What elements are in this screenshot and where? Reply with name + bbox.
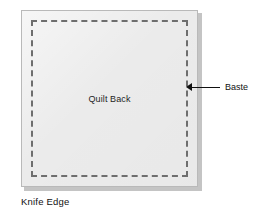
knife-edge-diagram: Quilt Back Baste Knife Edge	[0, 0, 254, 222]
figure-caption: Knife Edge	[21, 196, 69, 207]
basting-stitch-line-bottom	[31, 175, 188, 177]
quilt-back-label: Quilt Back	[22, 94, 197, 104]
baste-callout: Baste	[186, 81, 248, 93]
callout-leader-line	[192, 87, 220, 88]
baste-callout-label: Baste	[225, 83, 248, 92]
basting-stitch-line-top	[31, 20, 188, 22]
quilt-back-square: Quilt Back	[21, 10, 198, 187]
